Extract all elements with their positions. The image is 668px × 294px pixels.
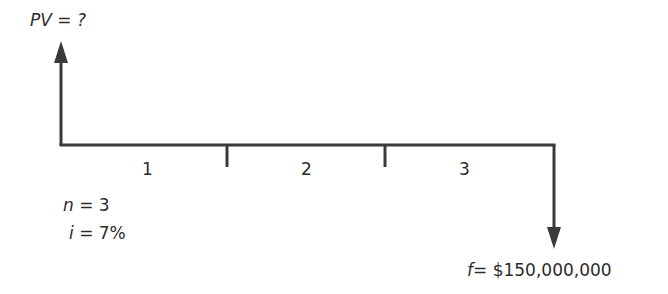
- pv-variable: PV: [30, 10, 52, 30]
- n-equals: =: [74, 195, 99, 215]
- i-parameter-label: i = 7%: [69, 225, 126, 242]
- period-label-2: 2: [301, 161, 312, 178]
- pv-equals: =: [52, 10, 77, 30]
- f-equals: =: [473, 260, 493, 280]
- up-arrow-icon: [54, 41, 68, 63]
- n-value: 3: [99, 195, 110, 215]
- timeline-graphic: [0, 0, 668, 294]
- cash-flow-diagram: PV = ? 1 2 3 n = 3 i = 7% f= $150,000,00…: [0, 0, 668, 294]
- period-label-3: 3: [459, 161, 470, 178]
- present-value-label: PV = ?: [30, 12, 86, 29]
- n-parameter-label: n = 3: [63, 197, 110, 214]
- period-label-1: 1: [142, 161, 153, 178]
- down-arrow-icon: [547, 227, 561, 249]
- i-value: 7%: [99, 223, 126, 243]
- i-equals: =: [74, 223, 99, 243]
- f-value: $150,000,000: [493, 260, 612, 280]
- future-value-label: f= $150,000,000: [467, 262, 612, 279]
- n-variable: n: [63, 195, 74, 215]
- pv-value: ?: [77, 10, 86, 30]
